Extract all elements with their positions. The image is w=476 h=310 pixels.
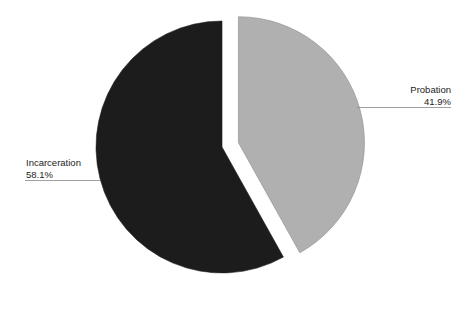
label-probation-name: Probation (410, 84, 451, 95)
label-incarceration: Incarceration 58.1% (26, 157, 81, 180)
pie-chart: Incarceration 58.1% Probation 41.9% (0, 0, 476, 310)
pie-slices (96, 17, 364, 273)
leader-lines (25, 108, 451, 181)
label-probation-pct: 41.9% (424, 96, 451, 107)
label-probation: Probation 41.9% (410, 84, 451, 107)
label-incarceration-name: Incarceration (26, 157, 81, 168)
label-incarceration-pct: 58.1% (26, 169, 53, 180)
